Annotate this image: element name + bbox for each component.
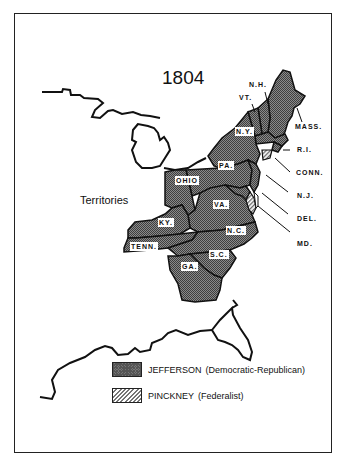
leader-mass	[297, 108, 302, 122]
legend-party: (Federalist)	[198, 391, 244, 401]
label-conn: CONN.	[296, 169, 324, 176]
legend-item-jefferson: JEFFERSON (Democratic-Republican)	[112, 362, 305, 377]
legend-candidate: JEFFERSON	[148, 365, 202, 375]
legend-party: (Democratic-Republican)	[206, 365, 306, 375]
label-ga: GA.	[181, 262, 198, 271]
michigan-outline	[132, 124, 170, 168]
label-nh: N.H.	[249, 81, 267, 88]
map-title: 1804	[162, 67, 204, 89]
territories-label: Territories	[80, 194, 128, 206]
pinckney-swatch	[112, 388, 142, 403]
label-vt: VT.	[239, 94, 252, 101]
label-ohio: OHIO	[175, 176, 199, 185]
state-mass	[255, 132, 288, 146]
state-conn	[262, 150, 272, 160]
label-va: VA.	[213, 200, 229, 209]
jefferson-swatch	[112, 362, 142, 377]
label-ri: R.I.	[297, 146, 312, 153]
label-ky: KY.	[158, 218, 174, 227]
label-del: DEL.	[297, 215, 317, 222]
leader-conn	[275, 158, 290, 172]
label-tenn: TENN.	[130, 242, 158, 251]
lake-erie-shore	[164, 158, 206, 170]
label-nc: N.C.	[226, 226, 246, 235]
leader-md	[258, 206, 290, 232]
legend-candidate: PINCKNEY	[148, 391, 194, 401]
great-lakes-boundary	[42, 89, 160, 118]
legend-item-pinckney: PINCKNEY (Federalist)	[112, 388, 244, 403]
label-sc: S.C.	[209, 250, 229, 259]
florida-outline	[212, 308, 252, 360]
label-mass: MASS.	[295, 123, 322, 130]
label-md: MD.	[297, 240, 313, 247]
label-pa: PA.	[218, 161, 234, 170]
label-ny: N.Y.	[235, 127, 254, 136]
label-nj: N.J.	[297, 192, 314, 199]
leader-del	[262, 193, 288, 214]
atlantic-coast-outline	[232, 300, 237, 308]
leader-nj	[266, 175, 288, 192]
